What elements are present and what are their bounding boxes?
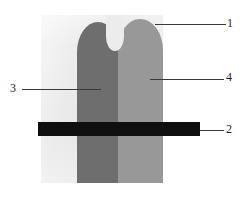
reference-numeral-1: 1 xyxy=(227,17,233,29)
reference-numeral-2: 2 xyxy=(226,123,232,135)
reference-numeral-3: 3 xyxy=(10,82,16,94)
leader-line-2 xyxy=(200,130,224,131)
leader-line-1 xyxy=(155,24,226,25)
finger-right-shape xyxy=(118,19,163,183)
black-bar-shape xyxy=(38,122,200,136)
figure-canvas: 1 4 3 2 xyxy=(0,0,242,197)
leader-line-4 xyxy=(150,79,224,80)
finger-left-shape xyxy=(77,22,119,183)
reference-numeral-4: 4 xyxy=(226,71,232,83)
leader-line-3 xyxy=(22,89,101,90)
